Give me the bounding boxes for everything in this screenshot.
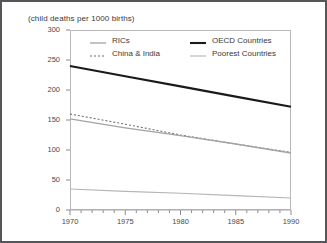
series-line-poorest-countries xyxy=(70,189,291,198)
legend-item-label: China & India xyxy=(112,49,160,58)
x-tick-label: 1990 xyxy=(274,217,308,226)
x-tick-label: 1975 xyxy=(108,217,142,226)
legend-line-swatch xyxy=(190,41,206,45)
legend-line-swatch xyxy=(90,54,106,58)
legend-line-swatch xyxy=(90,41,106,45)
legend-line-swatch xyxy=(190,54,206,58)
chart-figure: (child deaths per 1000 births) 050100150… xyxy=(0,0,327,243)
y-tick-label: 0 xyxy=(34,205,60,214)
data-series-lines xyxy=(70,66,291,198)
series-line-rics xyxy=(70,119,291,153)
x-tick-label: 1970 xyxy=(53,217,87,226)
y-tick-label: 100 xyxy=(34,145,60,154)
series-line-oecd-countries xyxy=(70,66,291,107)
x-tick-label: 1985 xyxy=(219,217,253,226)
y-tick-label: 300 xyxy=(34,25,60,34)
y-tick-label: 50 xyxy=(34,175,60,184)
y-tick-label: 150 xyxy=(34,115,60,124)
legend-item-label: Poorest Countries xyxy=(212,49,276,58)
x-tick-label: 1980 xyxy=(164,217,198,226)
legend-item-label: OECD Countries xyxy=(212,36,272,45)
series-line-china-india xyxy=(70,114,291,152)
legend-item-label: RICs xyxy=(112,36,130,45)
y-tick-label: 250 xyxy=(34,55,60,64)
y-tick-label: 200 xyxy=(34,85,60,94)
